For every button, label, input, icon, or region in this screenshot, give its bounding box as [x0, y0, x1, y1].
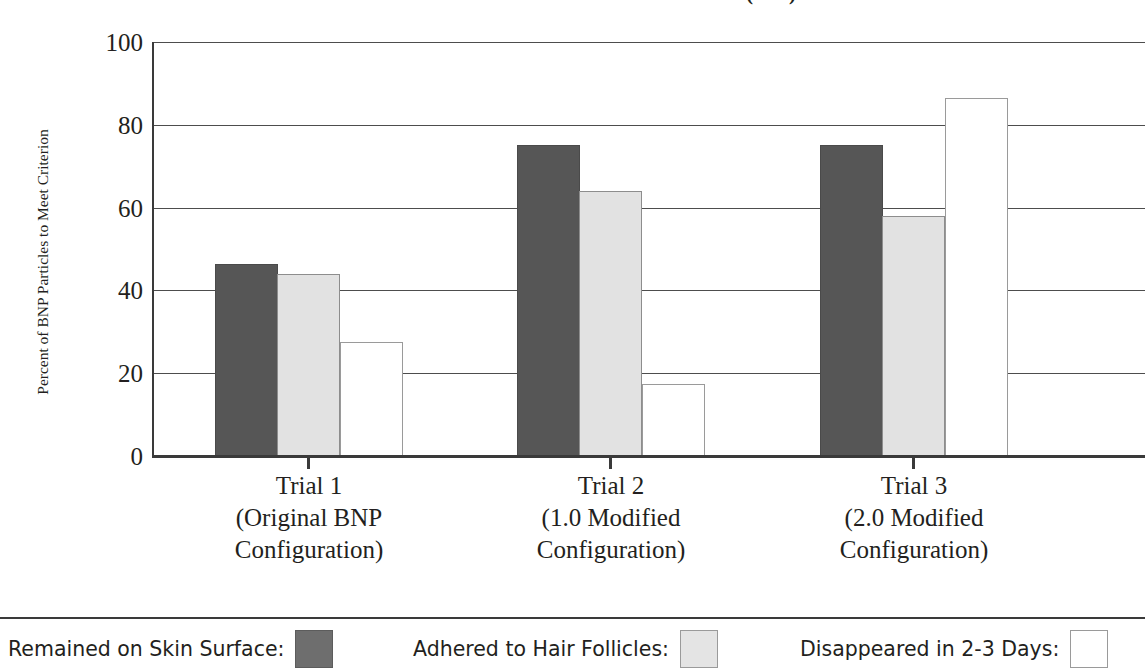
- x-category-line: Trial 2: [461, 470, 761, 502]
- bar-trial3-disappeared: [945, 98, 1008, 456]
- bar-trial1-disappeared: [340, 342, 403, 456]
- gridline-100: [152, 42, 1145, 43]
- light-gray-swatch-icon: [680, 630, 718, 668]
- bar-trial1-remained: [215, 264, 278, 456]
- y-tick-label-80: 80: [55, 113, 143, 138]
- y-axis-title: Percent of BNP Particles to Meet Criteri…: [34, 102, 52, 422]
- bar-trial1-adhered: [277, 274, 340, 456]
- bar-trial2-disappeared: [642, 384, 705, 456]
- legend-item-adhered-to-hair-follicles: Adhered to Hair Follicles:: [413, 628, 718, 669]
- chart-title: Percent of BNP Particles to Meet Criteri…: [0, 0, 1145, 6]
- legend: Remained on Skin Surface: Adhered to Hai…: [0, 628, 1145, 669]
- bar-trial2-adhered: [579, 191, 642, 456]
- legend-divider: [0, 617, 1145, 619]
- x-tick-trial1: [307, 456, 310, 469]
- legend-item-disappeared-in-2-3-days: Disappeared in 2-3 Days:: [800, 628, 1108, 669]
- x-category-line: Configuration): [764, 534, 1064, 566]
- x-category-label-trial1: Trial 1 (Original BNP Configuration): [159, 470, 459, 566]
- x-tick-trial3: [912, 456, 915, 469]
- x-category-line: Trial 3: [764, 470, 1064, 502]
- x-category-line: Trial 1: [159, 470, 459, 502]
- x-category-line: Configuration): [159, 534, 459, 566]
- y-tick-label-0: 0: [55, 444, 143, 469]
- legend-item-remained-on-skin-surface: Remained on Skin Surface:: [8, 628, 333, 669]
- y-tick-label-60: 60: [55, 196, 143, 221]
- legend-label: Remained on Skin Surface:: [8, 637, 284, 661]
- x-axis-line: [152, 455, 1145, 458]
- y-tick-label-40: 40: [55, 278, 143, 303]
- bar-trial3-remained: [820, 145, 883, 456]
- x-category-line: (2.0 Modified: [764, 502, 1064, 534]
- bar-trial3-adhered: [882, 216, 945, 456]
- dark-gray-swatch-icon: [295, 630, 333, 668]
- y-axis-line: [152, 42, 154, 458]
- legend-label: Disappeared in 2-3 Days:: [800, 637, 1059, 661]
- plot-area: [152, 42, 1145, 456]
- x-category-line: (1.0 Modified: [461, 502, 761, 534]
- x-category-label-trial2: Trial 2 (1.0 Modified Configuration): [461, 470, 761, 566]
- y-tick-label-100: 100: [55, 30, 143, 55]
- x-category-line: Configuration): [461, 534, 761, 566]
- x-category-label-trial3: Trial 3 (2.0 Modified Configuration): [764, 470, 1064, 566]
- y-tick-label-20: 20: [55, 361, 143, 386]
- white-swatch-icon: [1070, 630, 1108, 668]
- bar-trial2-remained: [517, 145, 580, 456]
- x-category-line: (Original BNP: [159, 502, 459, 534]
- legend-label: Adhered to Hair Follicles:: [413, 637, 669, 661]
- x-tick-trial2: [609, 456, 612, 469]
